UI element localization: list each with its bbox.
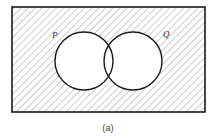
- set-circle-q: [104, 32, 162, 90]
- set-label-p: P: [51, 30, 58, 40]
- figure-caption: (a): [102, 123, 114, 133]
- venn-diagram-figure: P Q (a): [0, 0, 216, 140]
- set-label-q: Q: [163, 29, 170, 39]
- venn-diagram-canvas: P Q (a): [0, 0, 216, 140]
